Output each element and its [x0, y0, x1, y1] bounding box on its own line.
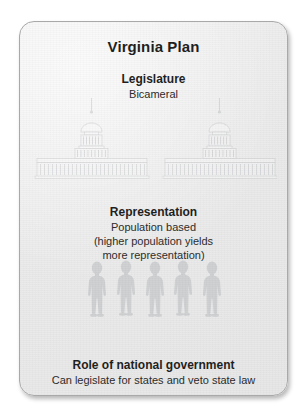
representation-body-line-1: Population based [20, 220, 287, 234]
representation-heading: Representation [20, 205, 287, 220]
role-body: Can legislate for states and veto state … [20, 373, 287, 387]
page-title: Virginia Plan [20, 38, 287, 55]
legislature-heading: Legislature [20, 72, 287, 87]
section-role-of-national-government: Role of national government Can legislat… [20, 358, 287, 387]
capitol-building-pair-icon [32, 94, 277, 184]
virginia-plan-card: Virginia Plan Legislature Bicameral [19, 21, 288, 396]
role-heading: Role of national government [20, 358, 287, 373]
people-group-icon [87, 260, 222, 318]
section-representation: Representation Population based (higher … [20, 205, 287, 262]
representation-body-line-2: (higher population yields [20, 234, 287, 248]
